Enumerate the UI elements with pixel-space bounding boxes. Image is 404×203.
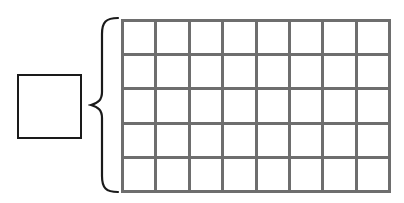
grid-cell <box>124 125 157 159</box>
grid-cell <box>191 56 224 90</box>
grid-cell <box>258 90 291 124</box>
grid-cell <box>224 90 257 124</box>
grid-cell <box>324 56 357 90</box>
grid-cell <box>358 90 391 124</box>
grid-cell <box>324 159 357 193</box>
grid-cell <box>157 159 190 193</box>
grid-cell <box>224 22 257 56</box>
grid-cell <box>258 22 291 56</box>
grid-cell <box>358 125 391 159</box>
grid-cell <box>258 159 291 193</box>
grid-cell <box>224 125 257 159</box>
curly-brace-icon <box>88 14 120 196</box>
grid-cell <box>124 22 157 56</box>
grid-cell <box>358 22 391 56</box>
grid-cell <box>291 90 324 124</box>
grid-cell <box>191 90 224 124</box>
grid-cell <box>124 56 157 90</box>
grid-cell <box>157 22 190 56</box>
grid-cell <box>258 56 291 90</box>
grid-cell <box>191 125 224 159</box>
array-grid <box>121 19 391 193</box>
grid-cell <box>124 90 157 124</box>
grid-cell <box>324 90 357 124</box>
grid-cell <box>258 125 291 159</box>
grid-cell <box>224 56 257 90</box>
grid-cell <box>291 22 324 56</box>
grid-cell <box>358 56 391 90</box>
grid-cell <box>224 159 257 193</box>
grid-cell <box>358 159 391 193</box>
grid-cell <box>291 56 324 90</box>
grid-cell <box>124 159 157 193</box>
grid-cell <box>191 22 224 56</box>
grid-cell <box>157 90 190 124</box>
answer-box[interactable] <box>17 74 82 139</box>
grid-cell <box>191 159 224 193</box>
grid-cell <box>157 56 190 90</box>
grid-cell <box>291 159 324 193</box>
grid-cell <box>324 22 357 56</box>
grid-cell <box>157 125 190 159</box>
grid-cell <box>291 125 324 159</box>
grid-cell <box>324 125 357 159</box>
